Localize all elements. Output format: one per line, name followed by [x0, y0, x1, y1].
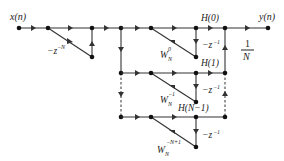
comb-section: x(n) −z −N: [9, 11, 121, 59]
w-exp: 0: [168, 46, 171, 52]
w-sub: N: [167, 101, 173, 107]
delay-label: −z: [202, 40, 212, 50]
arrow-right-icon: [135, 70, 140, 76]
node: [90, 26, 95, 31]
delay-exp: −1: [213, 84, 220, 90]
arrow-down-icon: [193, 129, 199, 134]
arrow-right-icon: [208, 70, 213, 76]
node: [194, 55, 199, 60]
signal-flow-diagram: x(n) −z −N H(0) W N 0 −z −1: [0, 0, 284, 161]
arrow-up-icon: [222, 91, 228, 96]
output-section: y(n) 1 N: [222, 11, 276, 119]
comb-gain-exp: −N: [57, 44, 66, 50]
delay-exp: −1: [213, 39, 220, 45]
node: [149, 115, 154, 120]
h-label: H(1): [200, 58, 219, 69]
arrow-right-icon: [172, 25, 177, 31]
node: [194, 71, 199, 76]
node: [194, 26, 199, 31]
branch-0: H(0) W N 0 −z −1: [121, 13, 225, 62]
node: [149, 71, 154, 76]
arrow-down-icon: [193, 39, 199, 44]
input-label: x(n): [9, 11, 27, 23]
arrow-right-icon: [172, 114, 177, 120]
sum-node: [223, 115, 228, 120]
arrow-down-icon: [118, 92, 124, 97]
input-node: [17, 26, 22, 31]
arrow-down-icon: [193, 84, 199, 89]
arrow-right-icon: [245, 25, 250, 31]
node: [46, 26, 51, 31]
branch-1: H(1) W N −1 −z −1: [121, 58, 225, 107]
sum-node: [223, 26, 228, 31]
gain-numerator: 1: [245, 38, 250, 49]
gain-denominator: N: [242, 51, 251, 62]
arrow-right-icon: [68, 25, 73, 31]
sum-node: [223, 71, 228, 76]
arrow-right-icon: [135, 25, 140, 31]
node: [194, 145, 199, 150]
arrow-right-icon: [135, 114, 140, 120]
branch-n-minus-1: H(N−1) W N −N+1 −z −1: [121, 103, 225, 157]
arrow-up-icon: [89, 41, 95, 46]
arrow-right-icon: [172, 70, 177, 76]
output-label: y(n): [258, 11, 276, 23]
delay-exp: −1: [213, 129, 220, 135]
node: [149, 26, 154, 31]
arrow-right-icon: [208, 25, 213, 31]
h-label: H(0): [200, 13, 219, 24]
arrow-down-icon: [118, 47, 124, 52]
node: [194, 115, 199, 120]
w-sub: N: [167, 56, 173, 62]
arrow-up-icon: [222, 45, 228, 50]
arrow-right-icon: [31, 25, 36, 31]
w-exp: −1: [168, 91, 175, 97]
arrow-right-icon: [104, 25, 109, 31]
arrow-diag-back-icon: [169, 130, 175, 134]
w-exp: −N+1: [166, 139, 181, 145]
w-sub: N: [164, 151, 170, 157]
delay-label: −z: [202, 85, 212, 95]
node: [90, 55, 95, 60]
comb-gain-label: −z: [47, 46, 57, 56]
h-label: H(N−1): [177, 103, 209, 114]
flow-graph: x(n) −z −N H(0) W N 0 −z −1: [0, 0, 284, 161]
delay-label: −z: [202, 130, 212, 140]
output-node: [266, 26, 271, 31]
